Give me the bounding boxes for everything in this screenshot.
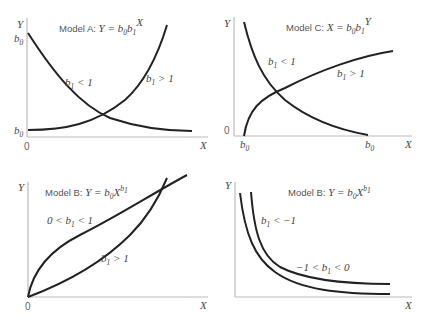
x-axis-label: X <box>199 139 208 151</box>
origin-label: 0 <box>25 301 31 312</box>
y-tick-b0-bottom: b0 <box>14 124 24 139</box>
panel-model-b-negative: Y X Model B: Y = b0Xb1 b1 < −1 −1 < b1 <… <box>225 179 413 311</box>
panel-title: Model B: Y = b0Xb1 <box>288 184 371 201</box>
origin-label: 0 <box>24 141 30 152</box>
x-tick-b0-right: b0 <box>365 138 375 153</box>
y-axis-label: Y <box>18 181 26 193</box>
label-b1-greater-1: b1 > 1 <box>337 67 365 82</box>
label-b1-greater-1: b1 > 1 <box>101 252 129 267</box>
model-curves-figure: Y b0 b0 0 X Model A: Y = b0b1X b1 < 1 b1… <box>0 0 428 321</box>
label-b1-between-0-1: 0 < b1 < 1 <box>47 214 93 229</box>
origin-label: 0 <box>224 125 230 136</box>
curve-log-growth <box>244 51 393 136</box>
panel-model-a: Y b0 b0 0 X Model A: Y = b0b1X b1 < 1 b1… <box>14 16 208 152</box>
y-axis-label: Y <box>17 18 25 30</box>
x-axis-label: X <box>199 299 208 311</box>
label-b1-less-1: b1 < 1 <box>268 55 296 70</box>
label-b1-greater-1: b1 > 1 <box>146 72 174 87</box>
x-axis-label: X <box>404 299 413 311</box>
y-axis-label: Y <box>224 17 232 29</box>
panel-title: Model C: X = b0b1Y <box>286 15 373 36</box>
panel-model-c: Y 0 b0 b0 X Model C: X = b0b1Y b1 < 1 b1… <box>224 15 413 153</box>
panel-title: Model B: Y = b0Xb1 <box>45 184 128 201</box>
y-tick-b0-top: b0 <box>14 32 24 47</box>
x-tick-b0-left: b0 <box>240 138 250 153</box>
x-axis-label: X <box>404 138 413 150</box>
panel-title: Model A: Y = b0b1X <box>59 16 144 37</box>
label-b1-less-minus-1: b1 < −1 <box>261 214 296 229</box>
panel-model-b-positive: Y 0 X Model B: Y = b0Xb1 0 < b1 < 1 b1 >… <box>18 175 208 312</box>
label-b1-between-minus1-0: −1 < b1 < 0 <box>296 261 350 276</box>
y-axis-label: Y <box>225 179 233 191</box>
